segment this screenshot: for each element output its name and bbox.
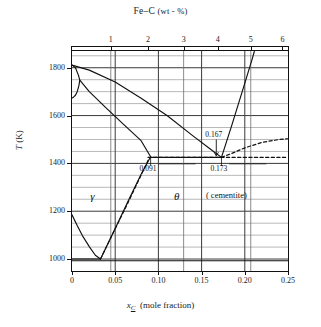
y-tick-label: 1400 <box>31 158 65 167</box>
top-axis-title: Fe–C (wt - %) <box>0 6 321 16</box>
x-tick-mark <box>72 271 73 275</box>
top-tick-label: 4 <box>203 35 233 44</box>
top-axis-title-text: Fe–C <box>134 6 155 16</box>
curve-metastable-cementite-dashed <box>221 139 288 158</box>
x-tick-label: 0.25 <box>268 276 308 285</box>
plot-canvas <box>72 51 288 271</box>
y-axis-label: T (K) <box>14 130 24 150</box>
top-tick-label: 3 <box>169 35 199 44</box>
annotation-label: 0.167 <box>205 130 222 139</box>
y-tick-mark <box>67 68 71 69</box>
annotation-label: 0.091 <box>140 164 157 173</box>
x-axis-label: xC (mole fraction) <box>0 300 321 312</box>
phase-label: ( cementite) <box>206 190 247 200</box>
x-tick-mark <box>288 271 289 275</box>
y-axis-label-text: T <box>14 145 24 150</box>
phase-label: θ <box>174 190 179 202</box>
y-tick-label: 1200 <box>31 206 65 215</box>
top-axis-line <box>71 46 289 47</box>
curve-liquidus-austenite <box>72 65 221 157</box>
phase-label: γ <box>90 190 94 202</box>
x-tick-label: 0.20 <box>225 276 265 285</box>
curve-delta-liquidus-peritectic-peak <box>72 65 80 98</box>
x-tick-mark <box>158 271 159 275</box>
x-tick-mark <box>245 271 246 275</box>
x-tick-label: 0.10 <box>138 276 178 285</box>
plot-area <box>71 50 289 272</box>
top-tick-label: 1 <box>96 35 126 44</box>
y-tick-label: 1000 <box>31 254 65 263</box>
top-tick-label: 2 <box>133 35 163 44</box>
annotation-label: 0.173 <box>210 164 227 173</box>
y-tick-mark <box>67 116 71 117</box>
y-tick-mark <box>67 163 71 164</box>
x-axis-label-sub: C <box>131 304 136 312</box>
y-tick-mark <box>67 259 71 260</box>
y-tick-mark <box>67 211 71 212</box>
x-tick-label: 0.15 <box>182 276 222 285</box>
y-tick-label: 1800 <box>31 63 65 72</box>
top-axis-title-units: (wt - %) <box>158 6 188 16</box>
x-axis-label-units: (mole fraction) <box>140 300 194 310</box>
x-tick-mark <box>115 271 116 275</box>
fe-c-phase-diagram-figure: Fe–C (wt - %) 123456 1000120014001600180… <box>0 0 321 327</box>
x-tick-label: 0 <box>52 276 92 285</box>
curve-austenite-solvus <box>72 215 101 259</box>
y-tick-label: 1600 <box>31 111 65 120</box>
x-tick-label: 0.05 <box>95 276 135 285</box>
curve-gamma-theta-boundary-metastable <box>101 159 149 259</box>
top-tick-label: 6 <box>267 35 297 44</box>
x-tick-mark <box>202 271 203 275</box>
top-tick-label: 5 <box>236 35 266 44</box>
